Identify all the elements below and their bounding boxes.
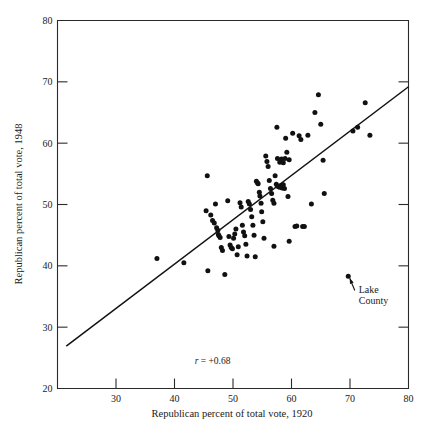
data-point — [294, 223, 299, 228]
data-point — [240, 223, 245, 228]
y-tick-label-20: 20 — [43, 383, 53, 394]
data-point — [367, 133, 372, 138]
data-point — [250, 223, 255, 228]
x-tick-label-40: 40 — [170, 393, 180, 404]
data-point — [263, 154, 268, 159]
data-point — [208, 212, 213, 217]
lake-county-label-line1: Lake — [359, 284, 380, 295]
data-point — [262, 236, 267, 241]
data-point — [231, 236, 236, 241]
data-point — [298, 137, 303, 142]
data-point — [232, 231, 237, 236]
data-point — [220, 248, 225, 253]
data-point — [225, 198, 230, 203]
data-point — [205, 268, 210, 273]
correlation-annotation: r = +0.68 — [195, 356, 231, 366]
data-point — [226, 234, 231, 239]
data-point — [316, 92, 321, 97]
data-point — [233, 227, 238, 232]
data-point — [287, 157, 292, 162]
data-point — [235, 252, 240, 257]
data-point — [268, 186, 273, 191]
y-axis-title: Republican percent of total vote, 1948 — [13, 124, 24, 285]
lake-county-label-line2: County — [359, 295, 388, 306]
data-point — [245, 254, 250, 259]
data-point — [309, 201, 314, 206]
data-point — [252, 233, 257, 238]
data-point — [305, 133, 310, 138]
y-tick-label-40: 40 — [43, 260, 53, 271]
data-point — [205, 173, 210, 178]
data-point — [213, 201, 218, 206]
correlation-value: = +0.68 — [198, 356, 230, 366]
data-point — [284, 150, 289, 155]
data-point — [267, 178, 272, 183]
data-point — [212, 220, 217, 225]
data-point — [287, 239, 292, 244]
data-point — [321, 158, 326, 163]
y-tick-label-70: 70 — [43, 76, 53, 87]
data-point — [154, 256, 159, 261]
x-tick-label-80: 80 — [404, 393, 414, 404]
data-point — [271, 244, 276, 249]
data-point — [264, 159, 269, 164]
data-point — [283, 136, 288, 141]
data-point — [346, 274, 351, 279]
y-tick-label-60: 60 — [43, 138, 53, 149]
data-point — [243, 242, 248, 247]
x-tick-label-30: 30 — [111, 393, 121, 404]
data-point — [215, 228, 220, 233]
data-point — [274, 125, 279, 130]
data-point — [259, 201, 264, 206]
scatter-plot-figure: 20304050607080 304050607080 Lake County … — [0, 0, 443, 444]
plot-canvas: 20304050607080 304050607080 Lake County … — [0, 0, 443, 444]
y-tick-label-50: 50 — [43, 199, 53, 210]
data-point — [302, 224, 307, 229]
data-point — [355, 125, 360, 130]
data-point — [204, 208, 209, 213]
y-tick-label-30: 30 — [43, 322, 53, 333]
data-point — [242, 233, 247, 238]
x-tick-label-60: 60 — [287, 393, 297, 404]
data-point — [256, 181, 261, 186]
data-point — [236, 244, 241, 249]
data-point — [318, 122, 323, 127]
x-axis-title: Republican percent of total vote, 1920 — [152, 408, 313, 419]
data-point — [269, 191, 274, 196]
x-tick-label-70: 70 — [345, 393, 355, 404]
data-point — [282, 186, 287, 191]
data-point — [247, 201, 252, 206]
data-point — [249, 214, 254, 219]
data-point — [230, 246, 235, 251]
data-point — [248, 207, 253, 212]
x-tick-label-50: 50 — [228, 393, 238, 404]
data-point — [281, 160, 286, 165]
data-point — [260, 219, 265, 224]
data-point — [222, 272, 227, 277]
data-point — [350, 128, 355, 133]
y-tick-label-80: 80 — [43, 15, 53, 26]
data-point — [290, 131, 295, 136]
data-point — [259, 209, 264, 214]
data-point — [322, 191, 327, 196]
data-point — [312, 110, 317, 115]
data-point — [239, 204, 244, 209]
data-point — [266, 164, 271, 169]
data-point — [363, 100, 368, 105]
data-point — [271, 201, 276, 206]
data-point — [181, 260, 186, 265]
data-point — [273, 173, 278, 178]
data-point — [218, 235, 223, 240]
data-point — [253, 254, 258, 259]
data-point — [257, 193, 262, 198]
data-point — [238, 200, 243, 205]
data-point — [285, 194, 290, 199]
figure-background — [0, 0, 443, 444]
